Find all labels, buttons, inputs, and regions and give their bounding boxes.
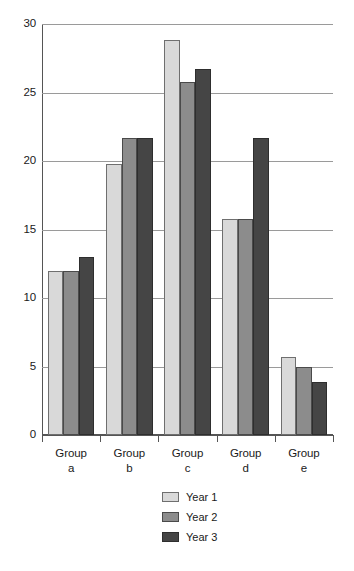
y-tick-label-25: 25 <box>6 87 36 99</box>
bar <box>281 357 297 435</box>
legend-item[interactable]: Year 2 <box>0 507 354 527</box>
bar-group <box>281 24 328 435</box>
x-axis-tick <box>158 436 159 442</box>
x-category-label-top: Group <box>230 447 261 459</box>
x-category-label: Groupe <box>275 446 333 476</box>
y-tick-label-15: 15 <box>6 224 36 236</box>
bar-chart: 051015202530 GroupaGroupbGroupcGroupdGro… <box>0 0 354 571</box>
x-category-label-top: Group <box>172 447 203 459</box>
legend-item-label: Year 1 <box>186 492 217 503</box>
legend-swatch-icon <box>162 512 179 522</box>
bar-group <box>48 24 95 435</box>
bar <box>106 164 122 435</box>
legend-swatch-icon <box>162 492 179 502</box>
plot-area <box>42 24 333 435</box>
bar <box>164 40 180 435</box>
x-category-label-top: Group <box>288 447 319 459</box>
bar <box>238 219 254 435</box>
x-category-label: Groupb <box>100 446 158 476</box>
bar <box>222 219 238 435</box>
x-axis-tick <box>275 436 276 442</box>
x-category-label: Groupc <box>158 446 216 476</box>
bar-group <box>106 24 153 435</box>
legend-item-label: Year 2 <box>186 512 217 523</box>
legend-item[interactable]: Year 1 <box>0 487 354 507</box>
y-tick-label-30: 30 <box>6 18 36 30</box>
y-tick-label-10: 10 <box>6 292 36 304</box>
x-category-label: Groupa <box>42 446 100 476</box>
x-category-label-bottom: e <box>275 461 333 476</box>
bar <box>180 82 196 435</box>
x-axis-tick <box>100 436 101 442</box>
bar-group <box>222 24 269 435</box>
x-category-label-top: Group <box>114 447 145 459</box>
y-tick-label-5: 5 <box>6 361 36 373</box>
bar <box>312 382 328 435</box>
x-axis-tick <box>333 436 334 442</box>
legend-swatch-icon <box>162 532 179 542</box>
x-axis-tick <box>42 436 43 442</box>
bar-group <box>164 24 211 435</box>
y-tick-label-20: 20 <box>6 155 36 167</box>
bar <box>296 367 312 436</box>
legend-item-label: Year 3 <box>186 532 217 543</box>
bar <box>63 271 79 435</box>
x-category-label-top: Group <box>55 447 86 459</box>
x-category-label: Groupd <box>217 446 275 476</box>
bar <box>79 257 95 435</box>
x-category-label-bottom: a <box>42 461 100 476</box>
x-axis-line <box>42 435 334 436</box>
bar <box>122 138 138 435</box>
x-category-label-bottom: c <box>158 461 216 476</box>
chart-legend: Year 1Year 2Year 3 <box>0 487 354 547</box>
bar <box>48 271 64 435</box>
x-category-label-bottom: d <box>217 461 275 476</box>
bar <box>137 138 153 435</box>
bar <box>253 138 269 435</box>
legend-item[interactable]: Year 3 <box>0 527 354 547</box>
x-category-label-bottom: b <box>100 461 158 476</box>
y-tick-label-0: 0 <box>6 429 36 441</box>
x-axis-tick <box>217 436 218 442</box>
bar <box>195 69 211 435</box>
